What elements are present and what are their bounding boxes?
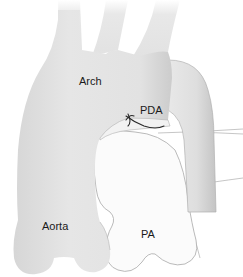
label-pa: PA (141, 229, 155, 240)
label-arch: Arch (79, 76, 102, 87)
anatomy-diagram (0, 0, 243, 277)
label-aorta: Aorta (42, 221, 68, 232)
label-pda: PDA (140, 105, 163, 116)
